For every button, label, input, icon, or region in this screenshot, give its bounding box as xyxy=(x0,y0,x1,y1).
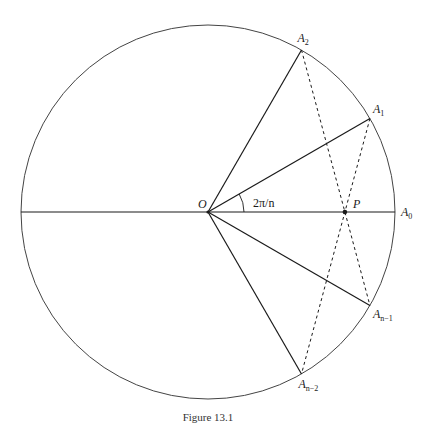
vertex-label-subscript: 1 xyxy=(380,109,384,118)
vertex-label-an-1: An−1 xyxy=(372,307,393,323)
label-p: P xyxy=(352,197,361,211)
angle-arc xyxy=(239,194,244,212)
vertex-label-subscript: 0 xyxy=(408,212,412,221)
radius-a2 xyxy=(208,50,302,212)
point-p-dot xyxy=(343,210,348,215)
vertex-label-a0: A0 xyxy=(400,205,412,221)
dashed-chord-a1-an-2 xyxy=(302,119,370,374)
vertex-label-a1: A1 xyxy=(372,102,384,118)
figure-caption: Figure 13.1 xyxy=(183,411,234,423)
vertex-label-subscript: 2 xyxy=(305,38,309,47)
point-o-dot xyxy=(206,210,209,213)
radius-a1 xyxy=(208,119,370,213)
regular-polygon-diagram: O P 2π/n A0A1A2An−1An−2 Figure 13.1 xyxy=(0,0,428,423)
vertex-label-subscript: n−1 xyxy=(380,314,393,323)
label-o: O xyxy=(198,197,207,211)
dashed-chord-a2-an-1 xyxy=(302,50,370,305)
vertex-label-subscript: n−2 xyxy=(306,384,319,393)
vertex-label-a2: A2 xyxy=(297,31,309,47)
label-angle: 2π/n xyxy=(253,196,274,210)
radius-an-1 xyxy=(208,212,370,306)
vertex-label-an-2: An−2 xyxy=(298,377,319,393)
radius-an-2 xyxy=(208,212,302,374)
